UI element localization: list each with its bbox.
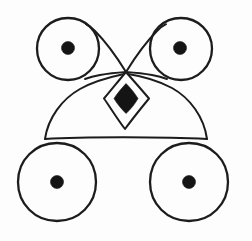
circle-top-left-center-dot: [62, 42, 75, 55]
circle-bottom-right-center-dot: [183, 176, 196, 189]
line-drawing-svg: [0, 0, 252, 241]
circle-bottom-left-center-dot: [51, 176, 64, 189]
diamond-inner-solid: [114, 84, 138, 114]
dome-baseline: [45, 137, 207, 139]
curve-crossing-to-top-left-circle: [86, 24, 126, 72]
diamond-inner-group: [114, 84, 138, 114]
figure-canvas: [0, 0, 252, 241]
circles-group: [18, 18, 228, 221]
dome-arc-right-half: [128, 74, 207, 139]
circle-top-right-center-dot: [174, 42, 187, 55]
curve-crossing-to-top-right-circle: [126, 24, 166, 72]
dome-arc-left-half: [45, 74, 124, 139]
